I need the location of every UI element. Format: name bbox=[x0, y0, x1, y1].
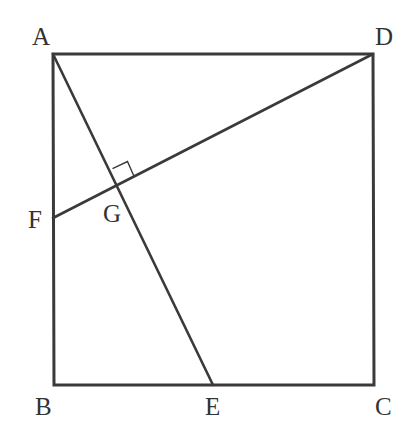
label-d: D bbox=[375, 23, 393, 50]
label-g: G bbox=[103, 200, 121, 227]
segment-ae bbox=[53, 54, 213, 385]
label-b: B bbox=[35, 393, 52, 420]
square-abcd bbox=[53, 54, 374, 385]
label-a: A bbox=[32, 23, 50, 50]
label-e: E bbox=[205, 393, 220, 420]
right-angle-marker bbox=[113, 162, 135, 177]
label-c: C bbox=[375, 393, 392, 420]
geometry-diagram: A D F G B E C bbox=[0, 0, 414, 444]
label-f: F bbox=[28, 206, 42, 233]
segment-df bbox=[53, 54, 373, 218]
